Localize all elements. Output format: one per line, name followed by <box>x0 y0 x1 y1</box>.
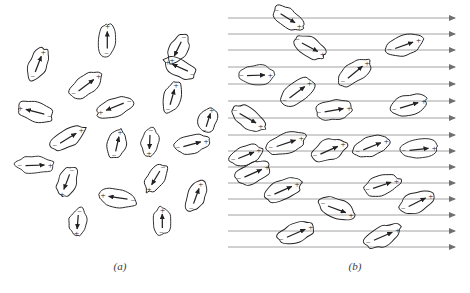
dipole-moment-arrow <box>325 109 344 112</box>
positive-charge-label: + <box>299 133 304 143</box>
dipole-moment-arrow <box>328 205 346 213</box>
dipole: −+ <box>261 173 306 206</box>
dipole: −+ <box>333 52 376 92</box>
positive-charge-label: + <box>297 21 302 31</box>
negative-charge-label: − <box>401 204 406 213</box>
negative-charge-label: − <box>317 108 322 117</box>
positive-charge-label: + <box>18 103 23 113</box>
panel-b-field-lines <box>228 18 455 247</box>
dipole: −+ <box>93 92 136 123</box>
dipole: −+ <box>360 219 406 254</box>
figure-canvas: −+−+−+−+−+−+−+−+−+−+−+−+−+−+−+−+−+−+−+−+… <box>0 0 470 293</box>
negative-charge-label: − <box>77 207 82 216</box>
positive-charge-label: + <box>432 143 437 153</box>
dipole: −+ <box>395 185 438 220</box>
dipole-moment-arrow <box>174 42 182 56</box>
negative-charge-label: − <box>279 235 284 244</box>
positive-charge-label: + <box>105 21 110 31</box>
negative-charge-label: − <box>202 126 207 135</box>
dipole-moment-arrow <box>320 146 338 154</box>
positive-charge-label: + <box>48 160 53 170</box>
dipole-moment-arrow <box>26 109 44 115</box>
negative-charge-label: − <box>112 151 117 160</box>
panel-b-dipoles: −+−+−+−+−+−+−+−+−+−+−+−+−+−+−+−+−+−+−+−+… <box>226 1 438 254</box>
positive-charge-label: + <box>198 179 203 189</box>
dipole: −+ <box>53 163 83 200</box>
dipole-moment-arrow <box>106 103 124 110</box>
positive-charge-label: + <box>295 179 300 189</box>
positive-charge-label: + <box>395 225 400 235</box>
positive-charge-label: + <box>416 35 421 45</box>
dipole: −+ <box>139 126 160 158</box>
dipole-moment-arrow <box>363 143 381 150</box>
dipole-moment-arrow <box>348 66 363 78</box>
positive-charge-label: + <box>384 136 389 146</box>
dipole-alignment-figure: −+−+−+−+−+−+−+−+−+−+−+−+−+−+−+−+−+−+−+−+… <box>0 0 470 293</box>
negative-charge-label: − <box>47 112 52 121</box>
negative-charge-label: − <box>166 105 171 114</box>
negative-charge-label: − <box>341 77 346 86</box>
dipole-moment-arrow <box>149 135 151 149</box>
dipole: −+ <box>158 79 185 116</box>
dipole: −+ <box>399 138 438 160</box>
dipole-moment-arrow <box>287 229 306 237</box>
dipole-moment-arrow <box>60 133 77 143</box>
positive-charge-label: + <box>160 205 165 215</box>
negative-charge-label: − <box>355 147 360 156</box>
negative-charge-label: − <box>176 143 181 152</box>
positive-charge-label: + <box>364 58 369 68</box>
negative-charge-label: − <box>127 97 132 106</box>
dipole-moment-arrow <box>26 165 45 166</box>
positive-charge-label: + <box>74 228 79 238</box>
dipole-moment-arrow <box>170 89 176 104</box>
dipole-moment-arrow <box>276 140 295 146</box>
negative-charge-label: − <box>189 204 194 213</box>
negative-charge-label: − <box>71 89 76 98</box>
negative-charge-label: − <box>402 146 407 155</box>
dipole-moment-arrow <box>115 137 119 152</box>
dipole-moment-arrow <box>109 196 128 200</box>
dipole-moment-arrow <box>107 32 108 49</box>
dipole: −+ <box>98 21 116 58</box>
dipole-moment-arrow <box>302 43 318 53</box>
positive-charge-label: + <box>203 136 208 146</box>
negative-charge-label: − <box>387 45 392 54</box>
positive-charge-label: + <box>256 145 261 155</box>
positive-charge-label: + <box>421 96 426 106</box>
dipole: −+ <box>159 52 198 83</box>
dipole: −+ <box>291 30 330 64</box>
dipole-moment-arrow <box>374 232 393 240</box>
dipole: −+ <box>361 170 404 201</box>
dipole-moment-arrow <box>247 75 265 76</box>
negative-charge-label: − <box>182 33 187 42</box>
dipole: −+ <box>269 1 309 36</box>
negative-charge-label: − <box>149 126 154 135</box>
negative-charge-label: − <box>30 72 35 81</box>
dipole: −+ <box>181 177 211 215</box>
positive-charge-label: + <box>146 184 151 194</box>
dipole-moment-arrow <box>172 64 188 72</box>
positive-charge-label: + <box>308 222 313 232</box>
dipole: −+ <box>263 127 310 159</box>
dipole: −+ <box>232 157 274 190</box>
positive-charge-label: + <box>209 105 214 115</box>
dipole: −+ <box>276 73 318 111</box>
dipole: −+ <box>97 186 138 211</box>
negative-charge-label: − <box>104 49 109 58</box>
dipole-moment-arrow <box>162 214 163 228</box>
positive-charge-label: + <box>100 190 105 200</box>
negative-charge-label: − <box>365 185 370 194</box>
negative-charge-label: − <box>231 155 236 164</box>
positive-charge-label: + <box>307 78 312 88</box>
dipole: −+ <box>47 120 91 156</box>
negative-charge-label: − <box>233 106 238 115</box>
positive-charge-label: + <box>268 70 273 80</box>
positive-charge-label: + <box>320 49 325 59</box>
negative-charge-label: − <box>321 199 326 208</box>
positive-charge-label: + <box>428 191 433 201</box>
dipole: −+ <box>195 105 221 136</box>
panel-a-dipoles: −+−+−+−+−+−+−+−+−+−+−+−+−+−+−+−+−+−+−+−+ <box>14 21 220 238</box>
positive-charge-label: + <box>394 176 399 186</box>
negative-charge-label: − <box>237 174 242 183</box>
positive-charge-label: + <box>258 121 263 131</box>
